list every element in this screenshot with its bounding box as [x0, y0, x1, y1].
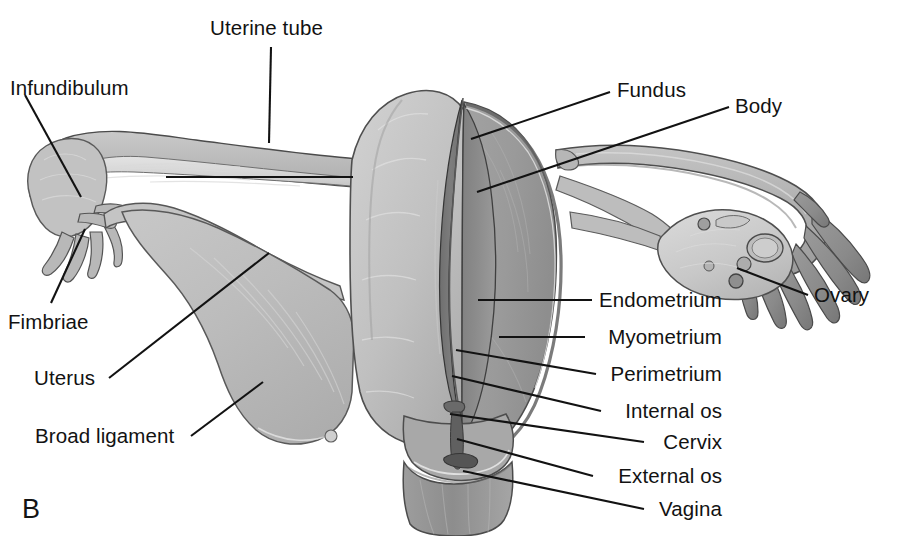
- label-internal-os: Internal os: [625, 401, 722, 422]
- label-infundibulum: Infundibulum: [10, 78, 129, 99]
- ovarian-follicle-1: [698, 218, 710, 230]
- label-cervix: Cervix: [663, 432, 722, 453]
- ovarian-follicle-large-inner: [752, 238, 778, 258]
- label-endometrium: Endometrium: [599, 290, 722, 311]
- broad-ligament-group: [122, 210, 354, 444]
- uterine-tube-leader: [269, 47, 271, 143]
- label-broad-ligament: Broad ligament: [35, 426, 174, 447]
- internal-os: [444, 401, 465, 413]
- label-myometrium: Myometrium: [608, 327, 722, 348]
- broad-ligament: [122, 210, 354, 444]
- label-fimbriae: Fimbriae: [8, 312, 89, 333]
- panel-letter: B: [22, 496, 40, 523]
- label-fundus: Fundus: [617, 80, 686, 101]
- label-body: Body: [735, 96, 782, 117]
- label-external-os: External os: [618, 466, 722, 487]
- ovarian-follicle-3: [729, 274, 743, 288]
- ovarian-follicle-4: [704, 261, 714, 271]
- label-perimetrium: Perimetrium: [610, 364, 722, 385]
- label-ovary: Ovary: [814, 285, 869, 306]
- anatomy-figure: Uterine tube Infundibulum Fundus Body En…: [0, 0, 910, 536]
- label-uterus: Uterus: [34, 368, 95, 389]
- label-uterine-tube: Uterine tube: [210, 18, 323, 39]
- label-vagina: Vagina: [659, 499, 722, 520]
- broad-ligament-nodule: [325, 430, 337, 442]
- anatomy-illustration: [0, 0, 910, 536]
- ovary-group: [570, 210, 793, 300]
